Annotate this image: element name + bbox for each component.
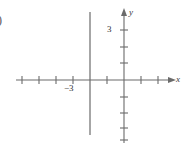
y-tick-label-3: 3: [107, 25, 112, 34]
part-label: ): [0, 14, 2, 26]
coordinate-plane-figure: ) y x 3 −3: [0, 0, 188, 151]
y-axis: [121, 8, 127, 143]
graph-canvas: [0, 0, 188, 151]
x-axis: [16, 77, 176, 83]
x-tick-label-minus-3: −3: [64, 84, 74, 93]
y-axis-label: y: [129, 8, 133, 17]
x-axis-label: x: [176, 75, 180, 84]
x-axis-arrow-icon: [168, 77, 176, 83]
y-axis-arrow-icon: [121, 8, 127, 16]
